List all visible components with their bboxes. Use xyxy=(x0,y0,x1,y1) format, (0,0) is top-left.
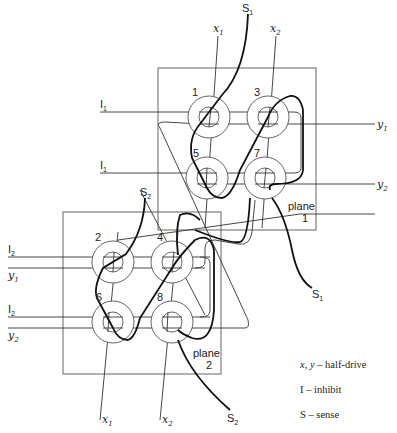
core-4-number: 4 xyxy=(157,231,163,243)
core-6-number: 6 xyxy=(96,291,102,303)
label-p2-y2: y2 xyxy=(7,329,19,344)
label-p2-y1: y1 xyxy=(7,269,19,284)
label-i2-bottom: I2 xyxy=(8,303,15,317)
i1-loop xyxy=(294,112,301,173)
core-8-number: 8 xyxy=(157,291,163,303)
plane-1-label-line1: plane xyxy=(288,200,315,212)
core-1-number: 1 xyxy=(192,86,198,98)
label-top-x1: x1 xyxy=(213,22,224,37)
label-bottom-x1: x1 xyxy=(102,413,113,428)
label-i1-top: I1 xyxy=(100,98,107,112)
label-p1-y1: y1 xyxy=(376,118,388,133)
label-top-s1: S1 xyxy=(242,2,253,16)
plane-2-label-line1: plane xyxy=(193,347,220,359)
core-memory-diagram: x1 x2 S1 I1 I1 y1 y2 S1 1 3 5 7 plane 1 … xyxy=(0,0,397,433)
core-7-number: 7 xyxy=(254,147,260,159)
core-8 xyxy=(151,301,193,343)
label-i1-bottom: I1 xyxy=(100,159,107,173)
sense-wire-s1-link xyxy=(195,198,250,242)
legend-item-sense: S – sense xyxy=(300,409,339,420)
core-6 xyxy=(92,301,134,343)
label-p1-y2: y2 xyxy=(376,178,388,193)
legend: x, y – half-drive I – inhibit S – sense xyxy=(299,359,367,420)
legend-item-half-drive: x, y – half-drive xyxy=(299,359,367,370)
label-bottom-s2: S2 xyxy=(227,412,238,426)
label-p1-s1-out: S1 xyxy=(312,288,323,302)
label-top-x2: x2 xyxy=(270,22,281,37)
label-p2-s2-top: S2 xyxy=(140,186,151,200)
pass-through-wires xyxy=(103,107,278,332)
label-i2-top: I2 xyxy=(8,243,15,257)
core-5-number: 5 xyxy=(193,147,199,159)
plane-2-label-line2: 2 xyxy=(206,359,212,371)
core-4 xyxy=(151,241,193,283)
legend-item-inhibit: I – inhibit xyxy=(300,384,342,395)
core-2-number: 2 xyxy=(95,231,101,243)
core-3-number: 3 xyxy=(254,86,260,98)
plane-1-label-line2: 1 xyxy=(302,212,308,224)
core-5 xyxy=(186,157,228,199)
label-bottom-x2: x2 xyxy=(162,413,173,428)
